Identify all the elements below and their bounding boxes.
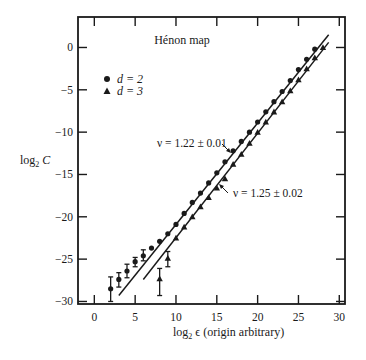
circle-marker-icon — [165, 231, 170, 236]
circle-marker-icon — [149, 246, 154, 251]
circle-marker-icon — [312, 47, 317, 52]
chart-canvas: 0510152025300−5−10−15−20−25−30 Hénon map… — [0, 0, 366, 360]
circle-marker-icon — [288, 78, 293, 83]
x-tick-label: 5 — [132, 311, 138, 323]
y-tick-label: −20 — [55, 211, 73, 223]
triangle-marker-icon — [165, 255, 171, 261]
circle-marker-icon — [108, 286, 113, 291]
circle-marker-icon — [255, 119, 260, 124]
annotation-text-d2: ν = 1.22 ± 0.01 — [157, 137, 227, 149]
x-tick-label: 25 — [293, 311, 305, 323]
axis-tick-labels: 0510152025300−5−10−15−20−25−30 — [55, 41, 345, 323]
legend-label-d3: d = 3 — [117, 84, 143, 98]
annotation-d3: ν = 1.25 ± 0.02 — [219, 184, 303, 199]
circle-marker-icon — [271, 99, 276, 104]
circle-marker-icon — [190, 200, 195, 205]
circle-marker-icon — [247, 130, 252, 135]
fit-line — [119, 35, 329, 296]
legend: d = 2 d = 3 — [104, 72, 144, 98]
fit-line — [143, 42, 328, 279]
y-axis-label: log2 C — [20, 153, 51, 169]
circle-marker-icon — [296, 67, 301, 72]
y-tick-label: −5 — [61, 84, 73, 96]
circle-marker-icon — [214, 170, 219, 175]
circle-marker-icon — [231, 148, 236, 153]
circle-marker-icon — [198, 190, 203, 195]
circle-marker-icon — [222, 159, 227, 164]
triangle-marker-icon — [156, 275, 162, 281]
circle-marker-icon — [304, 57, 309, 62]
x-tick-label: 20 — [252, 311, 264, 323]
circle-marker-icon — [124, 268, 129, 273]
circle-marker-icon — [280, 89, 285, 94]
fit-lines — [119, 35, 329, 296]
x-tick-label: 0 — [91, 311, 97, 323]
circle-marker-icon — [239, 139, 244, 144]
circle-marker-icon — [206, 180, 211, 185]
circle-marker-icon — [157, 239, 162, 244]
circle-marker-icon — [116, 277, 121, 282]
y-tick-label: −30 — [55, 295, 73, 307]
legend-triangle-icon — [104, 88, 111, 95]
circle-marker-icon — [182, 211, 187, 216]
circle-marker-icon — [173, 222, 178, 227]
annotation-d2: ν = 1.22 ± 0.01 — [157, 137, 231, 153]
y-tick-label: −15 — [55, 168, 73, 180]
circle-marker-icon — [141, 253, 146, 258]
annotation-text-d3: ν = 1.25 ± 0.02 — [233, 187, 303, 199]
x-tick-label: 15 — [211, 311, 223, 323]
y-tick-label: −25 — [55, 253, 73, 265]
x-tick-label: 10 — [170, 311, 182, 323]
legend-circle-icon — [104, 76, 110, 82]
chart-title: Hénon map — [154, 33, 210, 47]
x-tick-label: 30 — [334, 311, 346, 323]
y-tick-label: 0 — [67, 41, 73, 53]
circle-marker-icon — [263, 109, 268, 114]
triangle-marker-icon — [205, 194, 211, 200]
circle-marker-icon — [133, 259, 138, 264]
x-axis-label: log2 ϵ (origin arbitrary) — [173, 325, 284, 341]
y-tick-label: −10 — [55, 126, 73, 138]
